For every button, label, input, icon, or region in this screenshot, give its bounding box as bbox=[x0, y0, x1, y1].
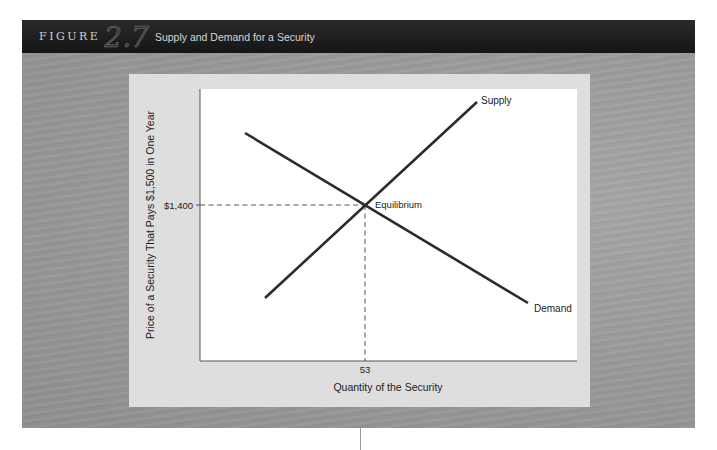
demand-label: Demand bbox=[534, 303, 572, 314]
plot-area bbox=[200, 89, 577, 361]
x-tick-label: 53 bbox=[360, 364, 371, 375]
supply-label: Supply bbox=[481, 95, 512, 106]
y-tick-label: $1,400 bbox=[164, 200, 193, 211]
column-divider bbox=[360, 428, 361, 450]
supply-demand-chart: Supply Demand Equilibrium $1,400 53 Quan… bbox=[0, 0, 717, 450]
x-axis-title: Quantity of the Security bbox=[333, 381, 443, 393]
equilibrium-label: Equilibrium bbox=[375, 199, 422, 210]
y-axis-title: Price of a Security That Pays $1,500 in … bbox=[144, 110, 156, 339]
